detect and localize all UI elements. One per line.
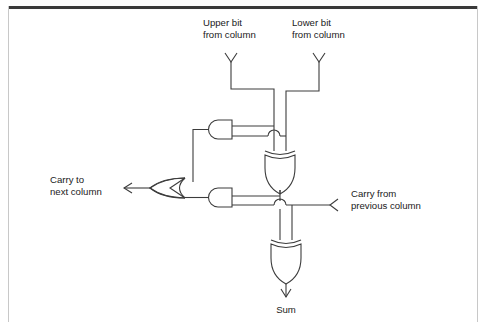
xor-gate-sum-back-arc xyxy=(271,240,301,244)
lower-bit-input-marker xyxy=(313,53,325,62)
label-carry-to-line1: Carry to xyxy=(50,174,84,185)
label-lower-bit-line1: Lower bit xyxy=(292,17,331,28)
upper-bit-wire xyxy=(231,62,274,151)
and-gate-lower-body xyxy=(209,188,233,207)
label-lower-bit-line2: from column xyxy=(292,29,345,40)
xor-gate-sum-body xyxy=(271,244,301,284)
upper-bit-input-marker xyxy=(225,53,237,62)
label-upper-bit-line1: Upper bit xyxy=(203,17,242,28)
label-upper-bit-line2: from column xyxy=(203,29,256,40)
and-gate-upper-body xyxy=(209,120,233,139)
label-carry-from-line2: previous column xyxy=(351,200,421,211)
xor-gate-upper-body xyxy=(265,155,295,194)
label-carry-to-line2: next column xyxy=(50,186,102,197)
label-sum: Sum xyxy=(276,304,296,315)
wire-group xyxy=(124,53,338,297)
label-carry-from-line1: Carry from xyxy=(351,188,396,199)
and-upper-output-wire xyxy=(193,130,209,183)
full-adder-circuit-diagram: Upper bit from column Lower bit from col… xyxy=(0,0,485,322)
carry-in-input-marker xyxy=(330,199,338,211)
lower-bit-wire xyxy=(286,62,319,151)
xor-gate-upper-back-arc xyxy=(265,151,295,155)
label-group: Upper bit from column Lower bit from col… xyxy=(50,17,421,315)
figure-root: Upper bit from column Lower bit from col… xyxy=(0,0,485,322)
